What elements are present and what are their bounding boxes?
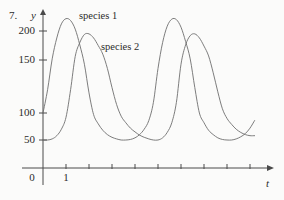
figure-container: 7. y t 0 species 1 species 2 50100150200… — [0, 0, 284, 200]
y-axis-label: y — [31, 10, 36, 21]
y-tick-label-200: 200 — [5, 25, 35, 36]
y-tick-label-50: 50 — [5, 134, 35, 145]
series-label-species-2: species 2 — [101, 42, 139, 53]
origin-label: 0 — [24, 172, 40, 183]
curves-group — [43, 18, 255, 140]
series-curve-2 — [43, 33, 255, 140]
y-axis-arrowhead — [40, 9, 46, 15]
x-axis-label: t — [266, 178, 269, 189]
y-tick-label-150: 150 — [5, 54, 35, 65]
x-axis-arrowhead — [267, 165, 274, 171]
tick-marks-group — [39, 31, 250, 169]
series-label-species-1: species 1 — [79, 11, 117, 22]
y-tick-label-100: 100 — [5, 107, 35, 118]
x-tick-label-1: 1 — [58, 172, 74, 183]
axes-group — [22, 9, 274, 185]
problem-number: 7. — [9, 10, 17, 21]
series-curve-1 — [43, 18, 255, 140]
population-chart — [0, 0, 284, 200]
